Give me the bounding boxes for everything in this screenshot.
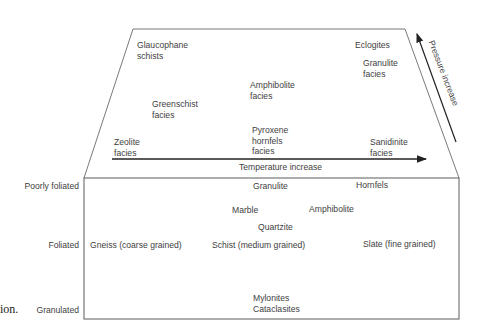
facies-line: facies: [252, 146, 288, 157]
facies-line: hornfels: [252, 136, 288, 147]
facies-line: schists: [137, 51, 188, 62]
rock-schist: Schist (medium grained): [212, 240, 305, 251]
rock-mylonites-cataclasites: Mylonites Cataclasites: [253, 293, 300, 314]
rock-slate: Slate (fine grained): [363, 239, 436, 250]
facies-amphibolite: Amphibolite facies: [250, 80, 295, 101]
facies-pyroxene-hornfels: Pyroxene hornfels facies: [252, 125, 288, 157]
row-label-foliated: Foliated: [48, 240, 79, 250]
facies-zeolite: Zeolite facies: [114, 137, 140, 158]
facies-sanidinite: Sanidinite facies: [370, 137, 408, 158]
facies-line: facies: [363, 69, 398, 80]
facies-line: facies: [250, 91, 295, 102]
facies-line: Sanidinite: [370, 137, 408, 148]
rock-gneiss: Gneiss (coarse grained): [90, 240, 182, 251]
caption-fragment: ion.: [0, 302, 18, 317]
facies-line: Pyroxene: [252, 125, 288, 136]
facies-granulite: Granulite facies: [363, 58, 398, 79]
temperature-axis-label: Temperature increase: [239, 162, 322, 173]
facies-greenschist: Greenschist facies: [152, 99, 198, 120]
facies-line: Greenschist: [152, 99, 198, 110]
facies-line: facies: [114, 148, 140, 159]
facies-line: Eclogites: [355, 40, 390, 51]
rock-granulite: Granulite: [253, 181, 288, 192]
rock-amphibolite: Amphibolite: [309, 204, 354, 215]
row-label-poorly-foliated: Poorly foliated: [25, 181, 79, 191]
facies-line: Amphibolite: [250, 80, 295, 91]
facies-eclogites: Eclogites: [355, 40, 390, 51]
facies-glaucophane-schists: Glaucophane schists: [137, 40, 188, 61]
facies-line: facies: [152, 110, 198, 121]
row-label-granulated: Granulated: [36, 305, 79, 315]
facies-line: Glaucophane: [137, 40, 188, 51]
rock-cataclasites: Cataclasites: [253, 304, 300, 315]
facies-line: facies: [370, 148, 408, 159]
rock-hornfels: Hornfels: [356, 180, 388, 191]
facies-line: Zeolite: [114, 137, 140, 148]
facies-line: Granulite: [363, 58, 398, 69]
rock-mylonites: Mylonites: [253, 293, 300, 304]
rock-quartzite: Quartzite: [258, 222, 293, 233]
rock-marble: Marble: [232, 205, 258, 216]
